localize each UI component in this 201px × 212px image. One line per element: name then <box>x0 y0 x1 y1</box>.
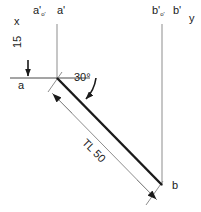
dimension-arrow-end <box>137 180 156 199</box>
label-a-top: a <box>18 80 24 91</box>
offset-dimension-label: 15 <box>12 36 23 48</box>
drawing-vector-layer <box>0 0 201 212</box>
label-b-front: b' <box>173 5 181 16</box>
axis-label-x: x <box>14 16 20 27</box>
dimension-arrow-start <box>53 94 72 113</box>
label-a-front-aux: a' <box>33 4 41 16</box>
angle-dimension-label: 30° <box>74 72 91 83</box>
label-a-front-aux-subscript: o' <box>41 11 45 17</box>
label-b-front-aux-subscript: o' <box>160 11 164 17</box>
label-b-front-aux: b' <box>152 4 160 16</box>
label-a-front-aux-group: a'o' <box>33 5 46 17</box>
axis-label-y: y <box>189 13 195 24</box>
true-length-line-ab <box>57 78 162 185</box>
technical-drawing-canvas: x a'o' a' b'o' b' y 15 a 30° TL 50 b <box>0 0 201 212</box>
label-b-front-aux-group: b'o' <box>152 5 165 17</box>
label-a-front: a' <box>57 5 65 16</box>
label-b-top: b <box>172 180 178 191</box>
